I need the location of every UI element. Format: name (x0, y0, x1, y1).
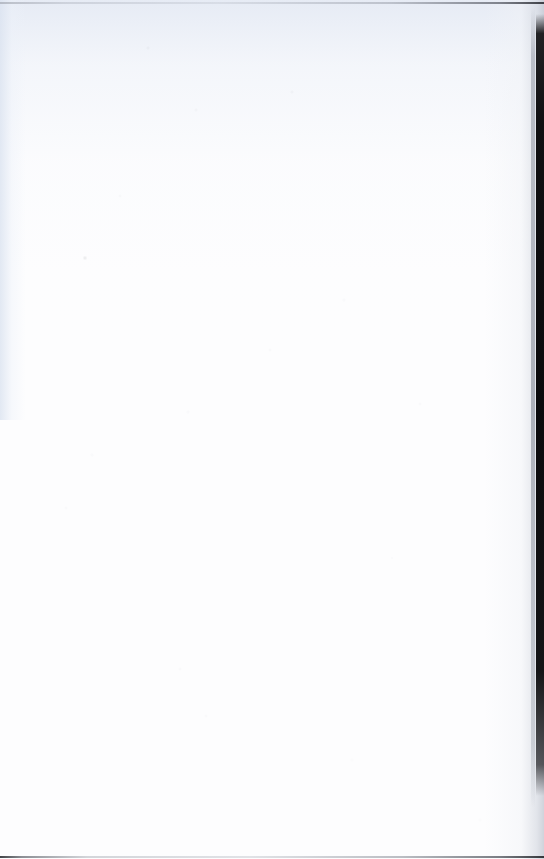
scanned-page (0, 0, 544, 859)
paper-surface (0, 0, 544, 859)
